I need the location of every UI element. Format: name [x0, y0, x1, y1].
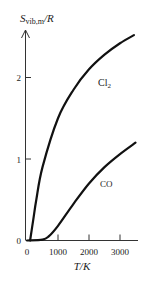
series-label-co: CO: [100, 179, 113, 189]
x-tick-label: 2000: [80, 247, 99, 257]
curves: [27, 35, 136, 240]
y-tick-label: 1: [17, 155, 22, 165]
x-tick-label: 3000: [111, 247, 130, 257]
x-tick-label: 1000: [49, 247, 68, 257]
chart: 012 0100020003000 Svib,m/R T/K Cl2 CO: [0, 0, 151, 281]
series-label-cl2: Cl2: [98, 77, 111, 90]
x-tick-label: 0: [25, 247, 30, 257]
x-axis-label: T/K: [74, 260, 91, 272]
y-tick-label: 2: [17, 73, 22, 83]
curve-co: [27, 143, 136, 241]
x-ticks: 0100020003000: [25, 235, 130, 258]
y-tick-label: 0: [17, 236, 22, 246]
y-axis-label: Svib,m/R: [20, 12, 54, 26]
y-ticks: 012: [17, 73, 32, 246]
curve-cl2: [30, 35, 134, 240]
